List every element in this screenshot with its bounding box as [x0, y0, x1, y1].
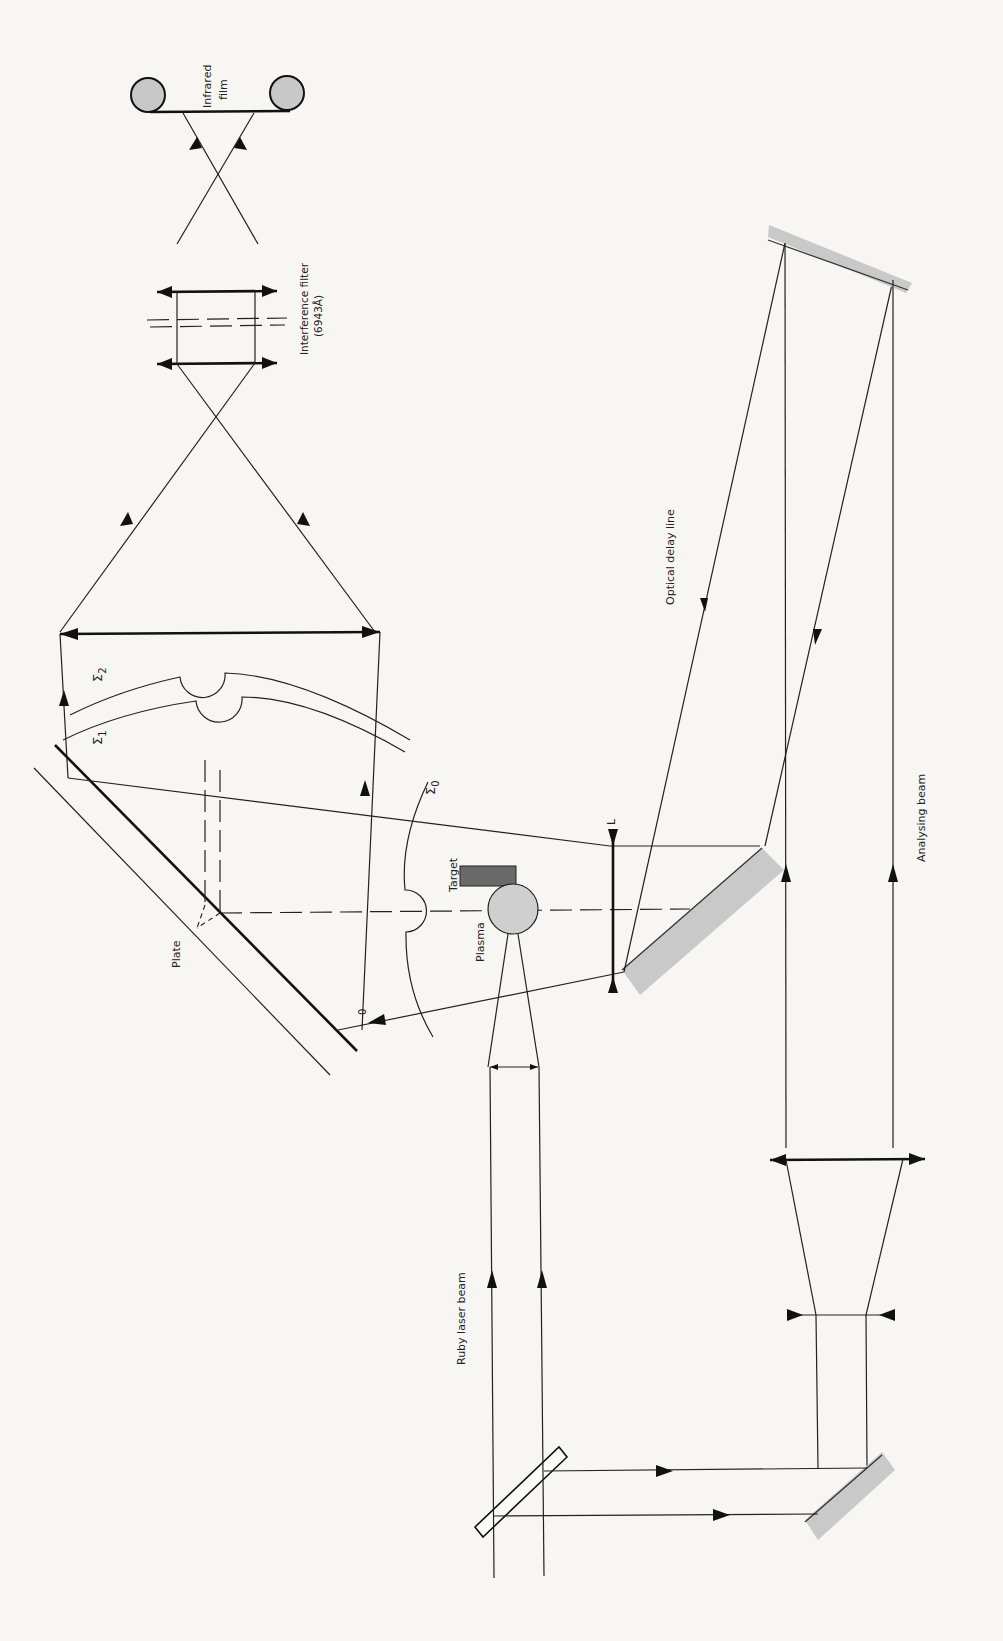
- target-label: Target: [447, 857, 460, 893]
- infrared-film-label: Infrared: [201, 65, 214, 108]
- interference-filter-label: Interference filter: [298, 262, 310, 355]
- optical-setup-diagram: Infrared film Interference filter (6943Å…: [0, 0, 1003, 1641]
- collecting-lens: [60, 626, 380, 640]
- imaging-lens-pair: [157, 285, 277, 370]
- sigma2-label: Σ2: [90, 667, 108, 682]
- optical-delay-line-label: Optical delay line: [664, 509, 677, 605]
- lens-l-label: L: [605, 818, 618, 825]
- target: [460, 866, 516, 886]
- plate-label: Plate: [170, 940, 183, 968]
- beam-expander-small-lens: [787, 1309, 895, 1321]
- delay-line-mirror: [768, 225, 912, 293]
- beam-splitter: [475, 1447, 567, 1537]
- plasma: [488, 884, 538, 934]
- infrared-film-label-2: film: [217, 79, 230, 100]
- lens-L: [608, 829, 618, 993]
- interference-filter: [147, 318, 287, 327]
- plasma-label: Plasma: [474, 922, 487, 962]
- point-o-label: 0: [357, 1009, 368, 1015]
- sigma1-label: Σ1: [90, 730, 108, 745]
- sigma0-label: Σ0: [423, 780, 441, 795]
- ruby-laser-beam-label: Ruby laser beam: [455, 1272, 468, 1365]
- interference-filter-wavelength: (6943Å): [312, 295, 324, 337]
- analysing-beam-label: Analysing beam: [915, 774, 928, 862]
